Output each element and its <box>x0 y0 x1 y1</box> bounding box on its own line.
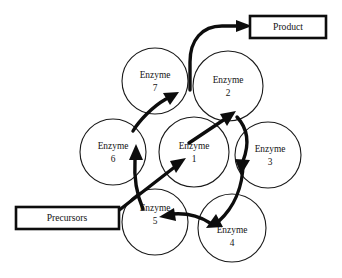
enzyme-node-2[interactable]: Enzyme 2 <box>193 51 263 121</box>
precursors-box[interactable]: Precursors <box>16 207 119 229</box>
enzyme-4-number: 4 <box>230 238 235 248</box>
product-box[interactable]: Product <box>250 16 326 38</box>
enzyme-pathway-diagram: Enzyme 7 Enzyme 2 Enzyme 6 Enzyme 1 Enzy… <box>0 0 342 278</box>
enzyme-6-number: 6 <box>111 154 116 164</box>
enzyme-node-1[interactable]: Enzyme 1 <box>159 117 229 187</box>
enzyme-2-number: 2 <box>226 88 231 98</box>
enzyme-1-circle <box>159 117 229 187</box>
enzyme-2-label: Enzyme <box>213 75 244 85</box>
enzyme-3-label: Enzyme <box>255 144 286 154</box>
diagram-canvas: Enzyme 7 Enzyme 2 Enzyme 6 Enzyme 1 Enzy… <box>0 0 342 278</box>
product-box-label: Product <box>273 21 303 32</box>
precursors-box-label: Precursors <box>47 212 88 223</box>
enzyme-1-number: 1 <box>192 154 197 164</box>
enzyme-1-label: Enzyme <box>179 141 210 151</box>
enzyme-5-number: 5 <box>153 216 158 226</box>
enzyme-7-label: Enzyme <box>140 70 171 80</box>
enzyme-7-number: 7 <box>153 83 158 93</box>
enzyme-2-circle <box>193 51 263 121</box>
enzyme-6-label: Enzyme <box>98 141 129 151</box>
enzyme-3-number: 3 <box>268 157 273 167</box>
enzyme-node-7[interactable]: Enzyme 7 <box>122 48 188 114</box>
enzyme-7-circle <box>122 48 188 114</box>
